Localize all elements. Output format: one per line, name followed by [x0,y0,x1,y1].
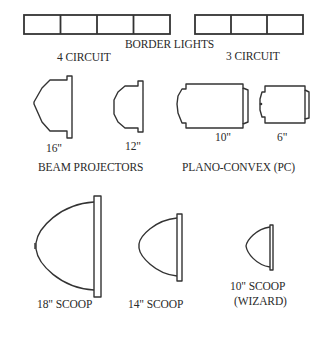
lighting-instruments-diagram: BORDER LIGHTS 4 CIRCUIT 3 CIRCUIT 16" 12… [0,0,325,340]
border-lights-title: BORDER LIGHTS [125,38,214,51]
beam-projector-16-label: 16" [46,142,62,155]
beam-projector-12-icon [114,81,143,132]
plano-convex-6-icon [260,86,309,123]
three-circuit-label: 3 CIRCUIT [226,50,280,63]
scoop-10-wizard-icon [246,225,273,270]
scoop-14-icon [139,214,182,281]
scoop-10-label: 10" SCOOP [230,280,285,293]
scoop-18-label: 18" SCOOP [37,298,92,311]
plano-convex-title: PLANO-CONVEX (PC) [182,161,295,174]
plano-convex-10-label: 10" [215,131,231,144]
plano-convex-6-label: 6" [277,131,287,144]
plano-convex-10-icon [177,84,248,128]
border-light-3-circuit-icon [195,15,303,34]
scoop-14-label: 14" SCOOP [128,298,183,311]
border-light-4-circuit-icon [24,15,170,34]
scoop-10-sublabel: (WIZARD) [234,295,287,308]
beam-projectors-title: BEAM PROJECTORS [38,161,143,174]
scoop-18-icon [35,196,101,297]
beam-projector-16-icon [34,76,72,138]
four-circuit-label: 4 CIRCUIT [57,51,111,64]
beam-projector-12-label: 12" [125,140,141,153]
